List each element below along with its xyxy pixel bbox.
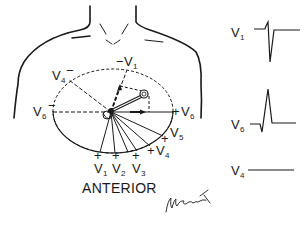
- label-v6-negative: V 6 −: [33, 98, 56, 121]
- axis-v3-positive: [111, 112, 128, 152]
- label-v1-negative: − V 1: [116, 54, 138, 71]
- svg-text:5: 5: [179, 133, 184, 142]
- svg-text:1: 1: [103, 169, 108, 178]
- svg-text:V: V: [231, 163, 240, 178]
- svg-text:+: +: [172, 104, 180, 119]
- anterior-label: ANTERIOR: [82, 180, 157, 196]
- torso-outline: [14, 6, 202, 118]
- axis-v2-positive: [111, 112, 115, 153]
- svg-text:6: 6: [190, 112, 195, 121]
- svg-text:V: V: [181, 104, 190, 119]
- svg-text:2: 2: [121, 169, 126, 178]
- svg-text:6: 6: [42, 112, 47, 121]
- svg-text:1: 1: [133, 62, 138, 71]
- label-v6-positive: + V 6: [172, 104, 195, 121]
- svg-text:4: 4: [165, 151, 170, 160]
- ecg-trace-v1: V 1: [231, 22, 300, 62]
- svg-text:−: −: [116, 54, 124, 69]
- svg-text:3: 3: [141, 169, 146, 178]
- signature: [166, 190, 210, 212]
- svg-text:−: −: [48, 98, 56, 113]
- svg-text:V: V: [33, 104, 42, 119]
- axis-v4-negative: [69, 80, 111, 112]
- svg-text:V: V: [94, 161, 103, 176]
- svg-text:4: 4: [240, 171, 245, 180]
- svg-text:V: V: [124, 54, 133, 69]
- svg-text:V: V: [156, 143, 165, 158]
- svg-text:V: V: [52, 68, 61, 83]
- svg-text:V: V: [132, 161, 141, 176]
- svg-text:−: −: [66, 63, 74, 78]
- ecg-trace-v4: V 4: [231, 163, 294, 180]
- svg-text:V: V: [231, 25, 240, 40]
- svg-text:1: 1: [240, 33, 245, 42]
- ecg-vector-diagram: − V 1 V 4 − V 6 − + V 6 + V 5 + V 4: [0, 0, 304, 225]
- label-v3-positive: + V 3: [132, 148, 146, 178]
- ecg-trace-v6: V 6: [231, 89, 296, 134]
- svg-text:V: V: [112, 161, 121, 176]
- mean-qrs-vector: [111, 90, 148, 111]
- svg-text:6: 6: [240, 125, 245, 134]
- svg-text:+: +: [147, 143, 155, 158]
- svg-text:V: V: [231, 117, 240, 132]
- svg-text:V: V: [170, 125, 179, 140]
